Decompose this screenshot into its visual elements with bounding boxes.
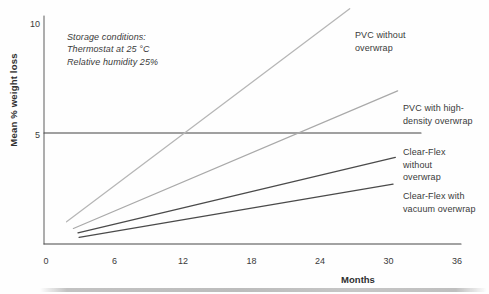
x-tick-30: 30 <box>377 256 401 266</box>
weight-loss-line-chart: Mean % weight loss Storage conditions: T… <box>0 0 489 294</box>
series-line-1 <box>73 91 397 229</box>
y-tick-5: 5 <box>14 130 40 140</box>
x-tick-36: 36 <box>445 256 469 266</box>
series-label-clear-flex-vacuum-overwrap: Clear-Flex with vacuum overwrap <box>403 190 476 215</box>
series-label-pvc-without-overwrap: PVC without overwrap <box>355 29 406 54</box>
x-tick-24: 24 <box>308 256 332 266</box>
series-label-clear-flex-without-overwrap: Clear-Flex without overwrap <box>403 146 446 184</box>
series-label-pvc-high-density-overwrap: PVC with high- density overwrap <box>403 102 473 127</box>
storage-conditions-note: Storage conditions: Thermostat at 25 °C … <box>67 31 158 68</box>
y-tick-10: 10 <box>14 19 40 29</box>
x-axis-title: Months <box>330 274 386 285</box>
series-line-3 <box>79 184 393 237</box>
scan-artifact-band <box>40 288 487 292</box>
x-tick-12: 12 <box>171 256 195 266</box>
x-tick-0: 0 <box>34 256 58 266</box>
x-tick-18: 18 <box>240 256 264 266</box>
x-tick-6: 6 <box>103 256 127 266</box>
series-line-2 <box>78 157 395 232</box>
y-axis-title: Mean % weight loss <box>8 40 22 160</box>
